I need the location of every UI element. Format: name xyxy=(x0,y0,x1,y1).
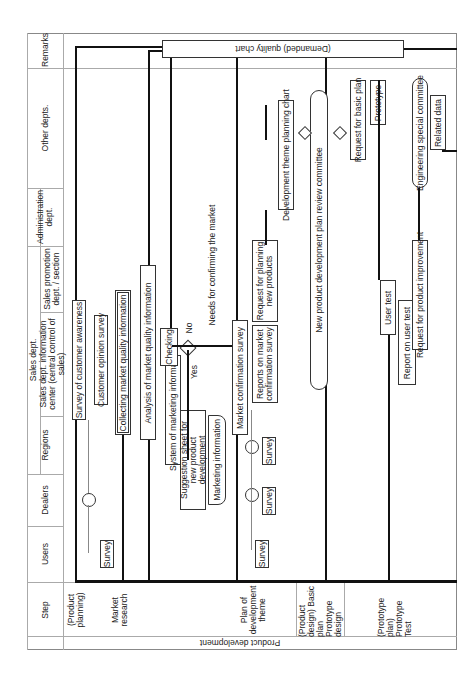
connector-line xyxy=(172,345,232,347)
suggestion-sheet: Suggestion sheet for new product develop… xyxy=(180,410,206,510)
connector-line xyxy=(187,350,189,460)
step-product-planning: (Product planning) xyxy=(67,590,85,630)
header-users: Users xyxy=(41,543,50,565)
connector-line xyxy=(265,105,267,140)
header-step: Step xyxy=(41,601,50,619)
customer-opinion-survey: Customer opinion survey xyxy=(94,315,108,405)
connector-circle xyxy=(82,493,96,507)
header-regions: Regions xyxy=(41,429,50,460)
connector-line xyxy=(88,505,89,553)
step-product-design: (Product design) Basic plan Prototype de… xyxy=(298,583,343,637)
flow-line xyxy=(75,46,163,48)
dev-theme-planning-chart: Development theme planning chart xyxy=(278,100,294,210)
market-confirmation-survey: Market confirmation survey xyxy=(232,320,248,435)
related-data: Related data xyxy=(430,95,446,150)
request-planning-new-products: Request for planning new products xyxy=(252,240,278,322)
header-sales-dept: Sales dept. xyxy=(29,339,38,382)
header-dealers: Dealers xyxy=(41,485,50,514)
survey-tag: Survey xyxy=(255,540,269,568)
request-basic-plan: Request for basic plan xyxy=(350,80,366,160)
flow-line xyxy=(170,58,172,358)
lane-divider xyxy=(40,416,64,417)
connector-line xyxy=(265,210,267,245)
review-committee: New product development plan review comm… xyxy=(310,90,328,390)
connector-line xyxy=(418,188,420,240)
survey-tag: Survey xyxy=(100,540,114,568)
analysis-market-quality-info: Analysis of market quality information xyxy=(140,265,156,440)
header-sales-promotion: Sales promotion dept. / section xyxy=(43,247,61,311)
collecting-market-quality-info: Collecting market quality information xyxy=(115,290,131,435)
survey-customer-awareness: Survey of customer awareness xyxy=(72,300,86,420)
header-other-depts: Other depts. xyxy=(41,105,50,152)
connector-line xyxy=(88,420,89,493)
user-test: User test xyxy=(380,280,396,335)
lane-divider xyxy=(27,68,457,69)
reports-market-confirmation: Reports on market confirmation survey xyxy=(252,325,278,403)
step-market-research: Market research xyxy=(111,590,129,630)
connector-line xyxy=(442,150,457,152)
quality-chart-box: (Demanded) quality chart xyxy=(162,40,404,58)
header-administration: Administration dept. xyxy=(36,187,54,247)
header-info-center: Sales dept. information center (central … xyxy=(39,314,66,414)
label-no: No xyxy=(185,323,194,334)
label-yes: Yes xyxy=(190,365,199,379)
connector-line xyxy=(388,335,390,581)
step-divider xyxy=(344,583,345,636)
request-product-improvement: Request for product improvement xyxy=(412,240,428,350)
lane-divider xyxy=(27,474,64,475)
side-label-product-development: Product development xyxy=(200,638,280,648)
header-remarks: Remarks xyxy=(41,33,50,67)
marketing-information: Marketing information xyxy=(208,415,226,505)
connector-circle xyxy=(245,440,259,454)
checking-box: Checking xyxy=(160,328,178,366)
needs-confirm-label: Needs for confirming the market xyxy=(208,205,217,326)
lane-divider xyxy=(40,312,64,313)
connector-circle xyxy=(245,488,259,502)
survey-tag: Survey xyxy=(262,437,276,465)
flow-line xyxy=(75,580,457,583)
step-prototype-plan: (Prototype plan) Prototype Test xyxy=(377,583,413,637)
flow-line xyxy=(148,50,162,52)
lane-divider xyxy=(27,526,64,527)
connector-line xyxy=(378,80,380,280)
flow-line xyxy=(402,48,457,50)
engineering-special-committee: Engineering special committee xyxy=(412,78,428,188)
step-plan-development-theme: Plan of development theme xyxy=(240,585,267,635)
connector-line xyxy=(251,410,252,550)
survey-tag: Survey xyxy=(262,487,276,515)
